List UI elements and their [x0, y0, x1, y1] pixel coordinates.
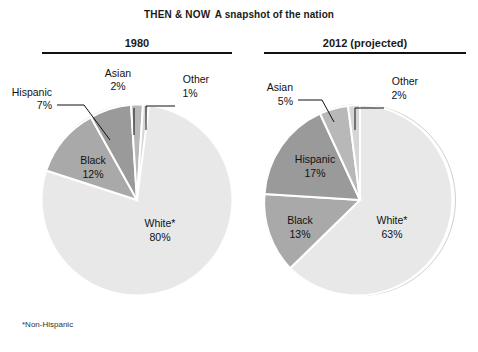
pie-2012-label-white-name: White*	[377, 214, 408, 226]
pie-1980-label-black-name: Black	[80, 154, 106, 166]
pie-1980-label-hispanic-pct: 7%	[37, 99, 52, 111]
pie-1980-label-white-name: White*	[145, 217, 176, 229]
pie-1980-label-asian-name: Asian	[105, 67, 131, 79]
pie-1980-label-asian-pct: 2%	[110, 80, 125, 92]
pie-1980-label-hispanic-name: Hispanic	[12, 86, 52, 98]
pie-chart-1980: Hispanic 7% Asian 2% Other 1% Black 12% …	[12, 67, 233, 296]
footnote: *Non-Hispanic	[22, 320, 73, 329]
pie-2012-label-other-pct: 2%	[391, 89, 406, 101]
pie-1980-label-white-pct: 80%	[149, 231, 170, 243]
charts-canvas: Hispanic 7% Asian 2% Other 1% Black 12% …	[0, 0, 478, 352]
pie-2012-label-black-pct: 13%	[289, 228, 310, 240]
pie-2012-label-hispanic-name: Hispanic	[295, 153, 335, 165]
pie-chart-2012: Asian 5% Other 2% Hispanic 17% Black 13%…	[264, 75, 455, 296]
pie-2012-label-asian-pct: 5%	[278, 95, 293, 107]
pie-2012-label-other-name: Other	[392, 75, 419, 87]
pie-1980-label-other-name: Other	[183, 73, 210, 85]
pie-2012-label-asian-name: Asian	[267, 81, 293, 93]
pie-1980-label-other-pct: 1%	[182, 87, 197, 99]
pie-2012-label-black-name: Black	[287, 214, 313, 226]
pie-2012-label-hispanic-pct: 17%	[304, 167, 325, 179]
pie-2012-label-white-pct: 63%	[381, 228, 402, 240]
pie-1980-label-black-pct: 12%	[82, 168, 103, 180]
